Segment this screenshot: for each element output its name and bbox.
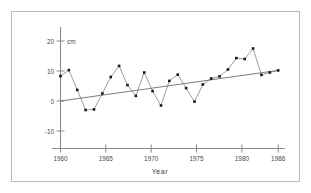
data-point-marker	[243, 58, 246, 61]
data-point-marker	[260, 74, 263, 77]
trend-line	[61, 70, 279, 101]
data-point-marker	[176, 73, 179, 76]
x-tick-label-1970: 1970	[144, 155, 159, 162]
y-tick-label-10: 10	[47, 68, 55, 75]
data-point-marker	[101, 92, 104, 95]
data-point-marker	[210, 77, 213, 80]
x-tick-label-1986: 1986	[271, 155, 286, 162]
data-point-marker	[160, 104, 163, 107]
data-point-marker	[227, 68, 230, 71]
chart-plot: 20 10 0 -10 cm 1960 1965 1970 1975 1980 …	[0, 0, 311, 193]
data-point-marker	[126, 84, 129, 87]
y-tick-label-0: 0	[50, 98, 54, 105]
data-point-marker	[135, 95, 138, 98]
x-tick-label-1965: 1965	[99, 155, 114, 162]
data-point-marker	[143, 71, 146, 74]
data-point-marker	[218, 75, 221, 78]
y-axis-unit-label: cm	[67, 38, 76, 45]
data-point-marker	[59, 75, 62, 78]
x-tick-label-1980: 1980	[235, 155, 250, 162]
y-axis: 20 10 0 -10 cm	[45, 27, 76, 148]
data-point-marker	[235, 57, 238, 60]
data-point-marker	[185, 87, 188, 90]
y-tick-label-20: 20	[47, 38, 55, 45]
data-point-marker	[168, 80, 171, 83]
data-point-marker	[84, 109, 87, 112]
data-point-marker	[76, 89, 79, 92]
data-point-marker	[93, 108, 96, 111]
x-axis: 1960 1965 1970 1975 1980 1986 Year	[52, 145, 286, 176]
x-tick-label-1960: 1960	[53, 155, 68, 162]
y-tick-label-minus10: -10	[45, 128, 55, 135]
data-point-marker	[193, 100, 196, 103]
x-tick-label-1975: 1975	[189, 155, 204, 162]
data-point-marker	[277, 69, 280, 72]
data-point-marker	[202, 83, 205, 86]
data-point-marker	[118, 65, 121, 68]
data-point-marker	[68, 69, 71, 72]
x-axis-title: Year	[152, 168, 169, 175]
data-point-marker	[252, 47, 255, 50]
data-point-marker	[269, 71, 272, 74]
data-point-marker	[109, 76, 112, 79]
data-point-marker	[151, 90, 154, 93]
